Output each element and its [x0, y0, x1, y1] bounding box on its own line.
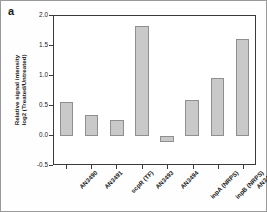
bar	[85, 115, 99, 136]
bar-slot	[105, 16, 129, 164]
x-tick-label: AN3493	[153, 169, 174, 190]
y-tick-label: 2.0	[24, 12, 48, 18]
panel-label: a	[8, 6, 14, 17]
y-tick-label: 1.5	[24, 42, 48, 48]
bar	[236, 39, 250, 136]
y-tick-label: -0.5	[24, 162, 48, 168]
bar	[160, 136, 174, 142]
bar-slot	[80, 16, 104, 164]
y-tick-label: 0.0	[24, 132, 48, 138]
x-tick-label: scpR (TF)	[130, 169, 155, 194]
figure-panel: a Relative signal intensity log2 (Treate…	[0, 0, 267, 212]
bar-slot	[155, 16, 179, 164]
plot-area	[53, 15, 256, 165]
bar-slot	[230, 16, 254, 164]
y-tick-label: 1.0	[24, 72, 48, 78]
bar	[110, 120, 124, 136]
bar	[185, 100, 199, 136]
y-axis-title-line2: log2 (Treated/Untreated)	[20, 54, 27, 125]
bar	[60, 102, 74, 136]
x-axis-tick-labels: AN3490AN3491scpR (TF)AN3493AN3494inpA (N…	[53, 169, 256, 211]
y-tick-mark	[49, 165, 53, 166]
y-axis-title-line1: Relative signal intensity	[13, 55, 20, 126]
x-tick-label: AN3490	[77, 169, 98, 190]
bar	[211, 78, 225, 136]
bar-slot	[205, 16, 229, 164]
bar-slot	[55, 16, 79, 164]
y-tick-label: 0.5	[24, 102, 48, 108]
bar-series	[54, 16, 255, 164]
x-tick-label: AN3491	[103, 169, 124, 190]
bar	[135, 26, 149, 136]
bar-slot	[130, 16, 154, 164]
bar-slot	[180, 16, 204, 164]
x-tick-label: AN3494	[179, 169, 200, 190]
